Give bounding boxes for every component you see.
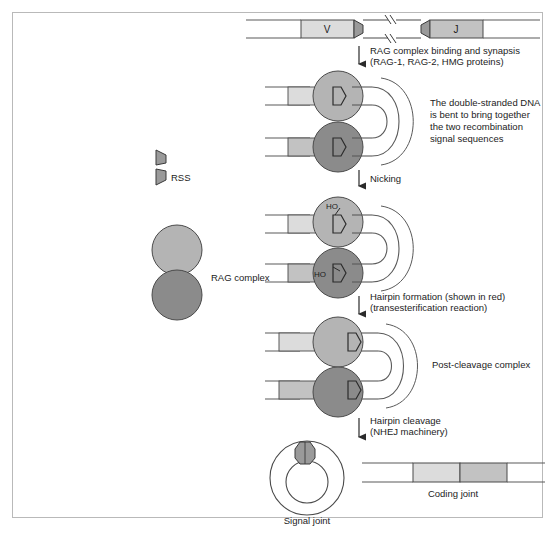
legend-rss-label: RSS (171, 172, 191, 183)
synapsis-note-line-3: the two recombination (430, 121, 523, 132)
step-hairpin-cleavage-line2: (NHEJ machinery) (370, 426, 448, 437)
rag-circle-upper-nicked (313, 197, 363, 247)
nick-marker-upper: HO (326, 202, 338, 211)
rag-circle-lower (313, 122, 363, 172)
v-segment-label: V (324, 24, 331, 35)
nick-marker-lower: HO (314, 270, 326, 279)
stage-nicking: HO HO (265, 197, 413, 298)
stage-synapsis (265, 71, 413, 172)
step-hairpin-cleavage-line1: Hairpin cleavage (370, 415, 441, 426)
synapsis-note-line-1: The double-stranded DNA (430, 97, 541, 108)
stage-germline-dna: V J (246, 15, 540, 43)
figure-canvas: V J RAG complex binding and synapsis (RA… (0, 0, 559, 539)
legend-rag-circle-lower (152, 270, 202, 320)
diagram-svg: V J RAG complex binding and synapsis (RA… (0, 0, 559, 539)
rss-triangle-v (354, 20, 363, 38)
step-hairpin-formation-line2: (transesterification reaction) (370, 302, 487, 313)
coding-joint-v-box (413, 463, 460, 482)
step-nicking-line1: Nicking (370, 173, 401, 184)
synapsis-note-line-2: is bent to bring together (430, 109, 530, 120)
legend-rag-circle-upper (152, 225, 202, 275)
legend-rag-label: RAG complex (211, 272, 270, 283)
legend-rss-triangle-top (156, 150, 166, 165)
dna-bend-inner (372, 105, 387, 138)
legend-rag-complex (152, 225, 202, 320)
j-segment-label: J (454, 24, 459, 35)
rag-circle-upper-postcleavage (313, 317, 363, 367)
rag-circle-lower-postcleavage (313, 367, 363, 417)
synapsis-note-line-4: signal sequences (430, 133, 504, 144)
rss-triangle-j (421, 20, 430, 38)
signal-joint-inner-circle (286, 461, 328, 503)
coding-joint-label: Coding joint (428, 488, 479, 499)
post-cleavage-complex-label: Post-cleavage complex (432, 359, 530, 370)
stage-post-cleavage (265, 317, 418, 417)
step-binding-line2: (RAG-1, RAG-2, HMG proteins) (370, 56, 504, 67)
legend-rss (156, 150, 166, 185)
dna-break-marks (385, 15, 396, 43)
stage-coding-joint (362, 463, 545, 482)
coding-joint-j-box (460, 463, 507, 482)
stage-signal-joint (270, 441, 344, 515)
rag-circle-upper (313, 71, 363, 121)
dna-bend-outer (372, 87, 399, 156)
legend-rss-triangle-bottom (156, 169, 166, 185)
step-binding-line1: RAG complex binding and synapsis (370, 45, 520, 56)
step-hairpin-formation-line1: Hairpin formation (shown in red) (370, 291, 505, 302)
signal-joint-label: Signal joint (284, 515, 331, 526)
